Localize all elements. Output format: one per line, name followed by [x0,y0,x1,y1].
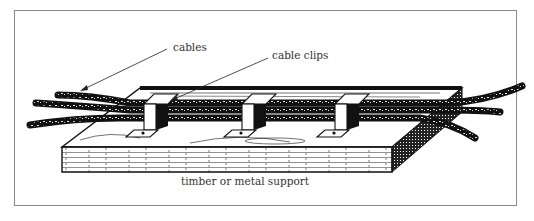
cable-clips-label: cable clips [272,50,328,61]
cable-clip-illustration [0,0,534,221]
cables-label: cables [173,42,207,53]
cables-leader [82,49,167,90]
cables-arrowhead [80,85,88,91]
support-label: timber or metal support [181,176,309,187]
